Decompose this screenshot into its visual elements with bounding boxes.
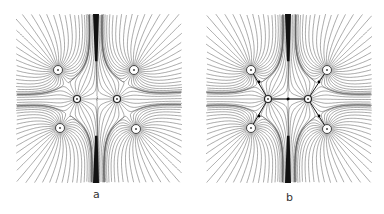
field-line [206,44,248,69]
field-line [133,132,140,183]
field-line [100,101,116,183]
field-line [16,19,56,68]
field-line [17,101,75,110]
field-line [138,131,180,182]
field-line [207,95,265,98]
field-line [206,36,248,68]
field-line [311,100,371,104]
saddle-point-icon [318,81,321,84]
field-line [120,14,132,68]
field-line [207,130,249,171]
field-line [330,130,371,154]
field-line [139,122,182,128]
field-line [16,60,55,70]
field-line [305,15,324,69]
field-line [139,130,181,154]
field-line [268,15,284,96]
field-line [137,33,182,68]
field-line [268,102,284,183]
field-line [61,131,66,183]
field-line [137,72,182,78]
field-line [138,131,181,173]
field-line [127,14,132,67]
field-line [78,15,93,97]
field-line [206,130,248,162]
field-line [61,15,80,69]
field-line [17,106,61,125]
field-line [43,131,60,182]
field-line [254,129,273,183]
field-line [313,14,325,68]
field-line [114,130,133,182]
saddle-point-icon [287,98,290,101]
field-line [16,127,57,135]
field-line [329,131,371,182]
field-line [290,101,306,183]
panel-b [206,14,372,183]
field-line [120,100,181,104]
field-line [16,129,57,153]
field-line [292,15,307,97]
separatrix-line [251,99,268,128]
field-line [50,131,61,183]
field-line [63,129,82,183]
field-line [330,131,372,163]
separatrix-line [251,70,268,99]
field-line [17,121,58,126]
field-line [233,131,250,182]
field-line [137,42,181,69]
field-line [253,14,265,68]
field-line [120,101,182,108]
field-line [207,64,248,71]
field-line [207,100,265,103]
saddle-point-icon [258,81,261,84]
field-line [16,73,57,87]
field-line [207,124,248,129]
field-line [330,72,372,78]
saddle-point-icon [318,115,321,118]
field-lines-plot-b [206,14,372,183]
field-line [40,15,58,68]
field-line [252,14,257,67]
field-line [327,132,344,182]
separatrix-line [308,99,327,129]
field-line [207,27,249,68]
field-line [330,36,372,68]
field-line [206,72,248,78]
field-line [139,131,181,163]
panel-label-b: b [286,191,293,204]
field-line [129,132,134,183]
field-line [330,122,372,128]
field-line [77,102,93,183]
field-line [137,68,182,74]
saddle-point-icon [258,115,261,118]
field-line [253,130,265,182]
dark-band-bottom [285,136,291,183]
field-line [254,15,273,69]
field-line [233,14,251,67]
field-line [329,131,371,172]
field-line [101,15,117,96]
field-line [305,130,324,182]
panel-label-a: a [93,188,100,201]
field-line [120,99,182,100]
field-line [136,132,153,182]
field-line [206,129,248,154]
field-line [324,132,331,183]
field-line [16,47,55,69]
field-line [311,99,371,100]
field-line [328,132,352,182]
field-line [17,130,58,162]
field-line [17,99,74,100]
field-line [135,132,146,182]
field-line [252,131,257,183]
field-line [137,132,161,182]
field-line [112,15,131,69]
field-line [17,130,58,170]
field-line [120,95,181,98]
field-line [207,127,248,134]
field-line [17,100,74,103]
field-line [330,45,371,69]
field-line [320,132,325,183]
separatrix-line [308,70,327,99]
